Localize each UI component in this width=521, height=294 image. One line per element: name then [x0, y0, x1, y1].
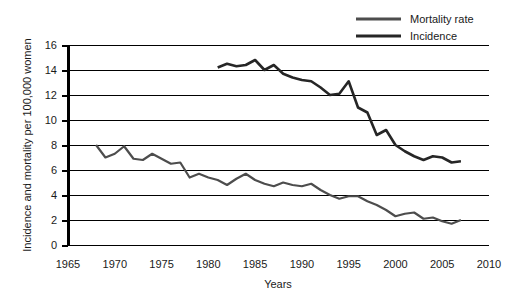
x-tick-label-1965: 1965 — [56, 258, 80, 270]
x-tick-labels: 1965197019751980198519901995200020052010 — [56, 258, 501, 270]
x-tick-label-2005: 2005 — [430, 258, 454, 270]
legend-label-0: Mortality rate — [410, 13, 474, 25]
x-tick-label-1995: 1995 — [336, 258, 360, 270]
x-axis-title: Years — [264, 278, 292, 290]
y-tick-label-16: 16 — [45, 39, 57, 51]
x-tick-label-2010: 2010 — [477, 258, 501, 270]
x-tick-label-1990: 1990 — [290, 258, 314, 270]
y-tick-label-8: 8 — [51, 139, 57, 151]
y-tick-label-2: 2 — [51, 214, 57, 226]
line-chart: 0246810121416 19651970197519801985199019… — [0, 0, 521, 294]
y-tick-label-14: 14 — [45, 64, 57, 76]
tick-marks-layer — [62, 46, 68, 246]
x-tick-label-1980: 1980 — [196, 258, 220, 270]
legend-label-1: Incidence — [410, 30, 457, 42]
x-tick-label-1975: 1975 — [149, 258, 173, 270]
x-tick-label-2000: 2000 — [383, 258, 407, 270]
legend: Mortality rateIncidence — [356, 13, 474, 42]
x-tick-label-1970: 1970 — [103, 258, 127, 270]
y-tick-label-10: 10 — [45, 114, 57, 126]
y-axis-title: Incidence and mortality per 100,000 wome… — [21, 38, 33, 251]
y-tick-label-12: 12 — [45, 89, 57, 101]
y-tick-label-0: 0 — [51, 239, 57, 251]
grid-layer — [68, 46, 489, 246]
y-tick-label-4: 4 — [51, 189, 57, 201]
y-tick-labels: 0246810121416 — [45, 39, 57, 251]
chart-container: 0246810121416 19651970197519801985199019… — [0, 0, 521, 294]
data-series-layer — [96, 60, 461, 224]
series-line-1 — [218, 60, 461, 163]
x-tick-label-1985: 1985 — [243, 258, 267, 270]
series-line-0 — [96, 145, 461, 224]
y-tick-label-6: 6 — [51, 164, 57, 176]
